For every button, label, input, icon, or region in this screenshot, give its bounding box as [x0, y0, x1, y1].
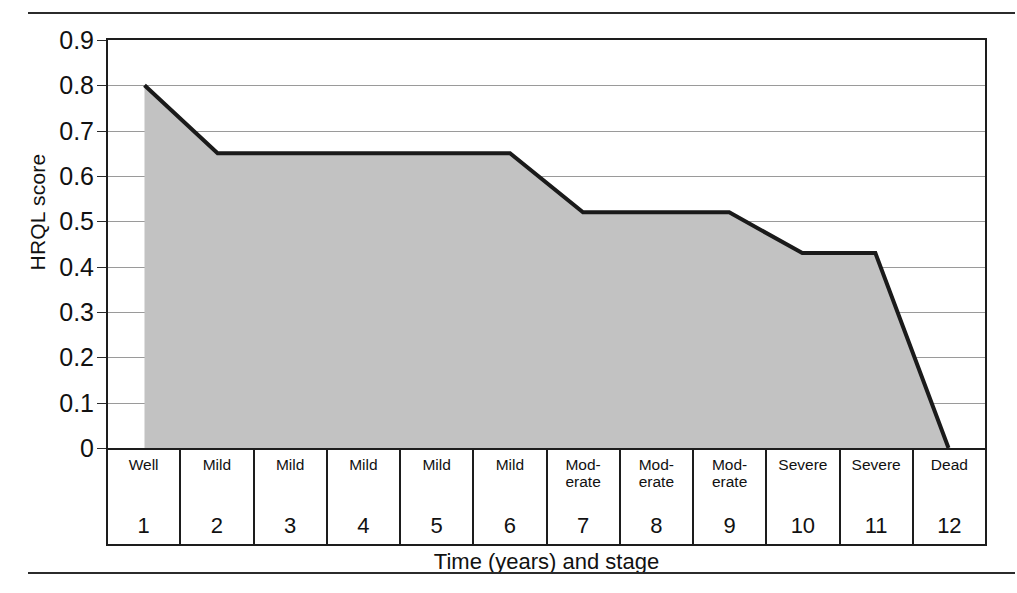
year-label: 4 [357, 515, 369, 537]
x-axis-cell: Mild6 [474, 450, 547, 544]
area-fill [145, 85, 949, 448]
y-axis-tick-labels: 0.90.80.70.60.50.40.30.20.10 [40, 38, 100, 450]
stage-label: Severe [778, 457, 827, 474]
y-tick-label: 0.6 [59, 164, 94, 189]
x-axis-category-table: Well1Mild2Mild3Mild4Mild5Mild6Mod- erate… [106, 450, 987, 546]
y-tick-label: 0.5 [59, 209, 94, 234]
stage-label: Severe [852, 457, 901, 474]
x-axis-cell: Mild2 [181, 450, 254, 544]
y-tick-label: 0.3 [59, 300, 94, 325]
x-axis-cell: Mod- erate8 [621, 450, 694, 544]
y-tick-label: 0.2 [59, 345, 94, 370]
year-label: 11 [865, 515, 888, 537]
stage-label: Mod- erate [639, 457, 674, 490]
y-tick-label: 0.4 [59, 254, 94, 279]
year-label: 5 [431, 515, 443, 537]
plot-area [106, 38, 987, 450]
year-label: 7 [577, 515, 589, 537]
stage-label: Mild [422, 457, 450, 474]
year-label: 12 [937, 515, 961, 537]
x-axis-cell: Mod- erate9 [694, 450, 767, 544]
bottom-horizontal-rule [28, 572, 1015, 574]
y-tick-label: 0 [80, 436, 94, 461]
stage-label: Mild [276, 457, 304, 474]
stage-label: Mild [496, 457, 524, 474]
y-tick-label: 0.8 [59, 73, 94, 98]
year-label: 8 [650, 515, 662, 537]
hrql-area-series [108, 40, 985, 448]
y-tick-label: 0.7 [59, 118, 94, 143]
stage-label: Dead [931, 457, 968, 474]
year-label: 9 [724, 515, 736, 537]
year-label: 10 [791, 515, 815, 537]
x-axis-cell: Mod- erate7 [548, 450, 621, 544]
stage-label: Mod- erate [565, 457, 600, 490]
year-label: 6 [504, 515, 516, 537]
y-tick-label: 0.1 [59, 390, 94, 415]
x-axis-cell: Mild4 [328, 450, 401, 544]
stage-label: Well [129, 457, 159, 474]
x-axis-cell: Mild3 [255, 450, 328, 544]
stage-label: Mild [349, 457, 377, 474]
x-axis-cell: Mild5 [401, 450, 474, 544]
x-axis-cell: Dead12 [914, 450, 985, 544]
top-horizontal-rule [28, 12, 1015, 14]
stage-label: Mod- erate [712, 457, 747, 490]
year-label: 2 [211, 515, 223, 537]
x-axis-cell: Severe10 [767, 450, 840, 544]
x-axis-cell: Well1 [108, 450, 181, 544]
figure-container: HRQL score 0.90.80.70.60.50.40.30.20.10 … [0, 0, 1017, 593]
year-label: 3 [284, 515, 296, 537]
x-axis-cell: Severe11 [841, 450, 914, 544]
stage-label: Mild [203, 457, 231, 474]
year-label: 1 [138, 515, 150, 537]
y-tick-label: 0.9 [59, 28, 94, 53]
